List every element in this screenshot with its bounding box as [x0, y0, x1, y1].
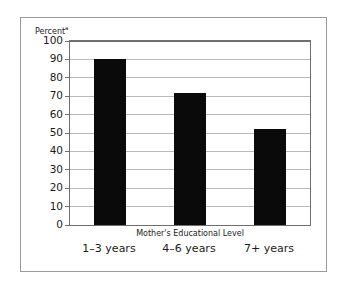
plot-area	[69, 40, 311, 226]
y-axis-tick-mark	[65, 59, 69, 60]
y-axis-tick-mark	[65, 77, 69, 78]
x-axis-tick-labels: 1–3 years4–6 years7+ years	[69, 242, 311, 258]
y-axis-tick-label: 90	[50, 53, 63, 63]
x-axis-tick-label: 4–6 years	[149, 242, 229, 255]
y-axis-tick-mark	[65, 206, 69, 207]
y-axis-tick-mark	[65, 151, 69, 152]
y-axis-unit-footnote-marker: a	[65, 25, 68, 31]
bar[interactable]	[254, 129, 286, 225]
y-axis-tick-label: 30	[50, 164, 63, 174]
y-axis-tick-label: 40	[50, 145, 63, 155]
bar[interactable]	[94, 59, 126, 225]
y-axis-tick-label: 60	[50, 109, 63, 119]
y-axis-tick-mark	[65, 188, 69, 189]
y-axis-tick-mark	[65, 41, 69, 42]
bar[interactable]	[174, 93, 206, 225]
y-axis-tick-label: 0	[56, 219, 63, 229]
gridline	[70, 41, 310, 42]
figure-frame: Percenta 1009080706050403020100 Mother's…	[20, 17, 327, 272]
y-axis-tick-mark	[65, 169, 69, 170]
y-axis-tick-label: 50	[50, 127, 63, 137]
x-axis-title: Mother's Educational Level	[69, 229, 311, 239]
y-axis-tick-mark	[65, 133, 69, 134]
x-axis-tick-label: 1–3 years	[69, 242, 149, 255]
y-axis-tick-label: 100	[43, 35, 63, 45]
y-axis-tick-label: 80	[50, 72, 63, 82]
y-axis-tick-mark	[65, 225, 69, 226]
y-axis-tick-labels: 1009080706050403020100	[21, 40, 63, 226]
y-axis-tick-label: 10	[50, 201, 63, 211]
y-axis-tick-mark	[65, 114, 69, 115]
x-axis-tick-label: 7+ years	[229, 242, 309, 255]
y-axis-tick-mark	[65, 96, 69, 97]
y-axis-tick-label: 70	[50, 90, 63, 100]
y-axis-tick-label: 20	[50, 182, 63, 192]
